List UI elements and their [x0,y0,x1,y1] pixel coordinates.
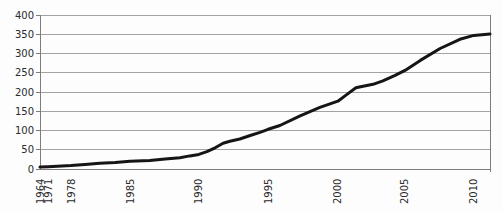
x-axis-label: 2000 [332,179,343,204]
y-axis-label: 300 [15,48,34,59]
y-axis-label: 400 [15,10,34,21]
x-axis-label: 1995 [263,179,274,204]
chart-screenshot: 0501001502002503003504001964197119781985… [0,0,503,212]
x-axis-label: 1990 [193,179,204,204]
x-axis-label: 2005 [399,179,410,204]
y-axis-label: 50 [21,144,34,155]
y-axis-label: 0 [28,164,34,175]
chart-svg: 0501001502002503003504001964197119781985… [0,0,503,212]
x-axis-label: 1978 [66,179,77,204]
x-axis-label: 2010 [468,179,479,204]
x-axis-label: 1971 [43,179,54,204]
y-axis-label: 100 [15,125,34,136]
y-axis-label: 250 [15,67,34,78]
y-axis-label: 350 [15,29,34,40]
y-axis-label: 200 [15,87,34,98]
y-axis-label: 150 [15,106,34,117]
line-chart: 0501001502002503003504001964197119781985… [0,0,503,212]
x-axis-label: 1985 [125,179,136,204]
